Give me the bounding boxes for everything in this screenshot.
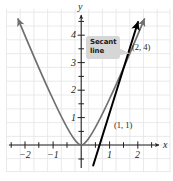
x-tick-label--2: −2 <box>19 150 31 160</box>
callout-line-1: Secant <box>90 38 116 47</box>
y-tick-label-2: 2 <box>71 85 76 95</box>
y-tick-label-4: 4 <box>71 30 76 40</box>
point-label-1-1: (1, 1) <box>114 121 132 130</box>
y-tick-label-1: 1 <box>71 113 76 123</box>
y-tick-label-3: 3 <box>71 58 76 68</box>
x-axis-label: x <box>163 140 167 150</box>
point-label-2-4: (2, 4) <box>132 43 150 52</box>
x-tick-label-2: 2 <box>135 150 140 160</box>
graph-figure: Secant line (2, 4) (1, 1) y x −2 −1 1 2 … <box>0 0 173 181</box>
y-axis-label: y <box>78 2 82 12</box>
x-tick-label--1: −1 <box>47 150 59 160</box>
grid-vertical <box>7 9 171 172</box>
x-tick-label-1: 1 <box>107 150 112 160</box>
secant-line-callout: Secant line <box>86 36 120 59</box>
callout-line-2: line <box>90 47 116 56</box>
